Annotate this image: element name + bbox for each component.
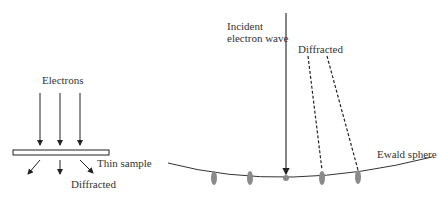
ewald-sphere-arc: [168, 157, 432, 177]
thin-sample: [13, 150, 109, 155]
diffracted-arrows-left: [28, 160, 93, 174]
ewald-sphere-label: Ewald sphere: [377, 148, 437, 160]
incident-label-line1: Incident: [227, 20, 263, 32]
electrons-label: Electrons: [42, 74, 84, 86]
incident-label-line2: electron wave: [227, 32, 288, 44]
diffracted-label-left: Diffracted: [71, 178, 116, 190]
diffracted-beams-dashed: [308, 56, 358, 170]
diffracted-label-right: Diffracted: [298, 43, 343, 55]
thin-sample-label: Thin sample: [97, 157, 152, 169]
incident-electron-arrows: [40, 93, 80, 145]
diagram-canvas: [0, 0, 439, 197]
